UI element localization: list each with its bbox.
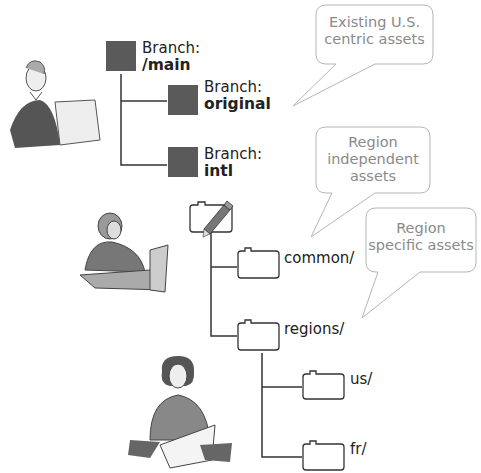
- callout-line: assets: [316, 168, 430, 185]
- callout-line: centric assets: [316, 31, 433, 48]
- folder-common-label: common/: [284, 249, 354, 267]
- branch-prefix: Branch:: [142, 39, 200, 57]
- branch-main-icon: [106, 41, 136, 71]
- callout-line: independent: [316, 151, 430, 168]
- regions-folder-icon: [238, 320, 279, 350]
- callout-1-text: Existing U.S. centric assets: [316, 14, 433, 48]
- branch-intl-label: Branch: intl: [204, 146, 262, 180]
- branch-name: intl: [204, 163, 262, 180]
- callout-2-text: Region independent assets: [316, 134, 430, 185]
- branch-name: original: [204, 96, 271, 113]
- callout-line: Region: [316, 134, 430, 151]
- woman-at-computer-2-figure: [80, 213, 168, 292]
- branch-main-label: Branch: /main: [142, 40, 200, 74]
- folder-regions-label: regions/: [284, 320, 344, 338]
- woman-with-papers-figure: [128, 356, 232, 468]
- fr-folder-icon: [303, 441, 344, 470]
- callout-line: Existing U.S.: [316, 14, 433, 31]
- woman-at-computer-1-figure: [10, 61, 100, 148]
- common-folder-icon: [238, 248, 279, 278]
- branch-original-label: Branch: original: [204, 79, 271, 113]
- branch-prefix: Branch:: [204, 78, 262, 96]
- branch-tree-lines: [121, 74, 167, 165]
- branch-original-icon: [168, 85, 198, 115]
- callout-line: specific assets: [366, 237, 476, 254]
- branch-intl-icon: [168, 147, 198, 177]
- us-folder-icon: [303, 371, 344, 399]
- folder-us-label: us/: [350, 370, 372, 388]
- callout-line: Region: [366, 220, 476, 237]
- branch-prefix: Branch:: [204, 145, 262, 163]
- callout-3-text: Region specific assets: [366, 220, 476, 254]
- branch-name: /main: [142, 57, 200, 74]
- folder-fr-label: fr/: [350, 440, 367, 458]
